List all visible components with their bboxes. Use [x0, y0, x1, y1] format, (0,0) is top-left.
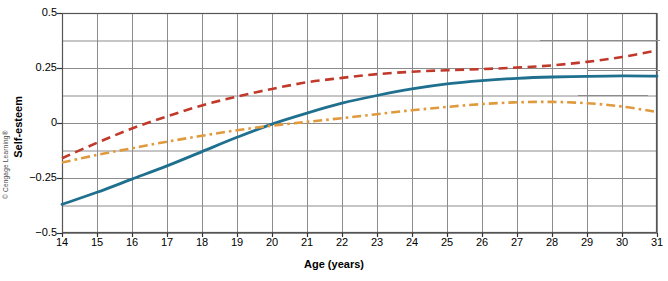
plot-area [0, 0, 668, 281]
self-esteem-line-chart: © Cengage Learning® Self-esteem Age (yea… [0, 0, 668, 281]
